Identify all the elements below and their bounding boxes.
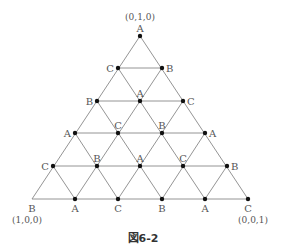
point-label: A bbox=[70, 203, 79, 214]
point-label: C bbox=[114, 203, 122, 214]
diagonal-line bbox=[205, 166, 227, 199]
lattice-point bbox=[95, 164, 99, 168]
point-label: A bbox=[135, 23, 144, 34]
lattice-point bbox=[116, 66, 120, 70]
point-label: C bbox=[106, 63, 114, 74]
lattice-point bbox=[203, 131, 207, 135]
diagonal-line bbox=[97, 101, 162, 199]
point-label: C bbox=[41, 161, 49, 172]
lattice-point bbox=[160, 66, 164, 70]
vertex-coord-top: (0,1,0) bbox=[125, 12, 155, 22]
vertex-coord-bottom-left: (1,0,0) bbox=[12, 215, 42, 225]
lattice-point bbox=[138, 164, 142, 168]
triangular-grid: ACBBACACBACBACBBACBAC(0,1,0)(1,0,0)(0,0,… bbox=[0, 0, 286, 252]
diagonal-line bbox=[118, 101, 183, 199]
lattice-point bbox=[225, 164, 229, 168]
lattice-point bbox=[73, 197, 77, 201]
point-label: C bbox=[114, 120, 122, 131]
point-label: B bbox=[93, 153, 100, 164]
ternary-lattice-diagram: ACBBACACBACBACBBACBAC(0,1,0)(1,0,0)(0,0,… bbox=[0, 0, 286, 252]
point-label: C bbox=[187, 96, 195, 107]
point-label: B bbox=[28, 203, 35, 214]
point-label: A bbox=[135, 88, 144, 99]
grid-lines bbox=[32, 36, 248, 199]
point-label: A bbox=[200, 203, 209, 214]
point-label: C bbox=[179, 153, 187, 164]
diagonal-line bbox=[140, 36, 248, 199]
lattice-point bbox=[138, 99, 142, 103]
point-label: B bbox=[231, 161, 238, 172]
point-label: A bbox=[208, 128, 217, 139]
point-label: B bbox=[166, 63, 173, 74]
point-label: B bbox=[86, 96, 93, 107]
lattice-point bbox=[116, 131, 120, 135]
point-label: B bbox=[158, 120, 165, 131]
point-label: A bbox=[135, 153, 144, 164]
lattice-point bbox=[203, 197, 207, 201]
lattice-point bbox=[73, 131, 77, 135]
diagonal-line bbox=[32, 36, 140, 199]
point-label: B bbox=[158, 203, 165, 214]
lattice-point bbox=[51, 164, 55, 168]
lattice-point bbox=[181, 164, 185, 168]
lattice-point bbox=[116, 197, 120, 201]
lattice-point bbox=[246, 197, 250, 201]
lattice-point bbox=[95, 99, 99, 103]
lattice-point bbox=[181, 99, 185, 103]
lattice-point bbox=[160, 197, 164, 201]
lattice-point bbox=[138, 34, 142, 38]
diagonal-line bbox=[53, 166, 75, 199]
vertex-coord-bottom-right: (0,0,1) bbox=[238, 215, 268, 225]
point-label: A bbox=[63, 128, 72, 139]
figure-caption: 図6-2 bbox=[0, 229, 286, 245]
point-label: C bbox=[244, 203, 252, 214]
lattice-point bbox=[160, 131, 164, 135]
